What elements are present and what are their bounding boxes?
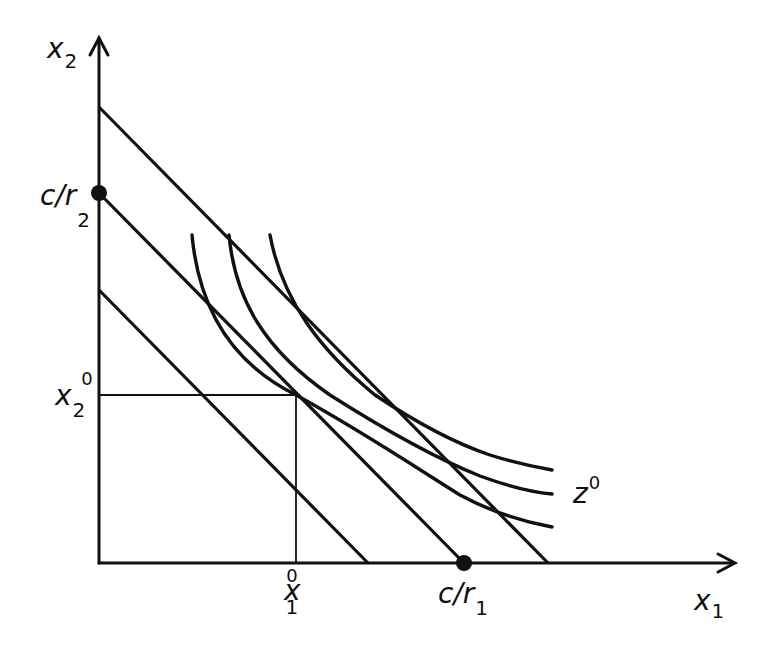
y-axis-label: x2	[46, 32, 77, 73]
x-intercept-dot-icon	[456, 555, 472, 571]
x-axis-label: x1	[693, 584, 724, 623]
isoquants	[192, 235, 552, 527]
x-intercept-label: c/r1	[438, 577, 488, 620]
y-intercept-dot-icon	[91, 185, 107, 201]
y-intercept-label: c/r2	[40, 179, 90, 232]
isocost-line-middle	[99, 193, 464, 563]
isocost-line-upper	[99, 107, 548, 563]
isoquant-upper	[270, 235, 552, 470]
isoquant-middle	[229, 235, 552, 494]
x2-optimum-label: x20	[54, 368, 93, 422]
isocost-lines	[99, 107, 548, 563]
isoquant-isocost-diagram: x2 x1 c/r2 c/r1 x20 x10 z0	[0, 0, 775, 660]
axes	[90, 38, 735, 572]
x1-optimum-label: x10	[283, 565, 301, 619]
isoquant-label: z0	[572, 472, 600, 510]
optimum-guides	[99, 395, 296, 563]
